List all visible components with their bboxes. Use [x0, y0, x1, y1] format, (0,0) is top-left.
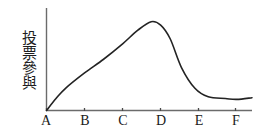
x-tick-label-b: B	[77, 114, 93, 128]
x-tick-label-a: A	[38, 114, 54, 128]
x-tick-label-e: E	[191, 114, 207, 128]
x-tick-label-c: C	[115, 114, 131, 128]
x-tick-label-d: D	[153, 114, 169, 128]
chart-screenshot: 投票參與 A B C D E F	[0, 0, 266, 134]
voter-turnout-line-chart: 投票參與 A B C D E F	[0, 0, 266, 134]
x-tick-label-f: F	[228, 114, 244, 128]
turnout-curve-line	[47, 21, 253, 110]
